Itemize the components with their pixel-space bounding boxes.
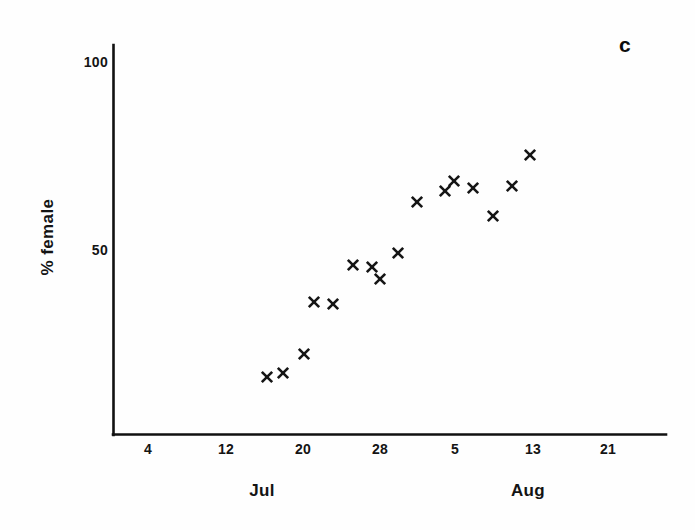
data-point-marker: Aug 4: 65% female	[440, 186, 450, 196]
y-axis-title: % female	[38, 199, 58, 276]
x-axis-month-label-aug: Aug	[511, 481, 545, 501]
x-axis-month-label-jul: Jul	[249, 481, 274, 501]
x-tick-label-7: 21	[600, 441, 616, 457]
x-tick-label-6: 13	[525, 441, 541, 457]
axes	[113, 45, 666, 435]
data-point-marker: Aug 9: 58% female	[488, 211, 498, 221]
data-point-marker: Aug 1: 62% female	[412, 197, 422, 207]
y-tick-label-100: 100	[84, 54, 108, 70]
data-point-marker: Jul 25: 46% female	[348, 260, 358, 270]
data-point-marker: Jul 18: 17% female	[278, 368, 288, 378]
panel-label: c	[619, 33, 631, 57]
y-tick-label-50: 50	[92, 242, 108, 258]
data-point-marker: Aug 13: 74% female	[525, 150, 535, 160]
data-point-markers: Jul 16: 16% femaleJul 18: 17% femaleJul …	[262, 150, 535, 382]
data-point-marker: Jul 28: 43% female	[375, 274, 385, 284]
plot-canvas: Jul 16: 16% femaleJul 18: 17% femaleJul …	[0, 0, 695, 530]
data-point-marker: Jul 30: 49% female	[393, 248, 403, 258]
data-point-marker: Aug 7: 66% female	[468, 183, 478, 193]
x-tick-label-5: 5	[451, 441, 459, 457]
data-point-marker: Aug 5: 68% female	[449, 176, 459, 186]
data-point-marker: Jul 23: 36% female	[328, 299, 338, 309]
data-point-marker: Jul 16: 16% female	[262, 372, 272, 382]
data-point-marker: Aug 11: 66% female	[507, 181, 517, 191]
x-tick-label-1: 4	[144, 441, 152, 457]
x-tick-label-3: 20	[295, 441, 311, 457]
data-point-marker: Jul 27: 45% female	[367, 262, 377, 272]
scatter-plot-figure: Jul 16: 16% femaleJul 18: 17% femaleJul …	[0, 0, 695, 530]
data-point-marker: Jul 20: 22% female	[299, 349, 309, 359]
data-point-marker: Jul 21: 36% female	[309, 297, 319, 307]
x-tick-label-2: 12	[218, 441, 234, 457]
x-tick-label-4: 28	[372, 441, 388, 457]
